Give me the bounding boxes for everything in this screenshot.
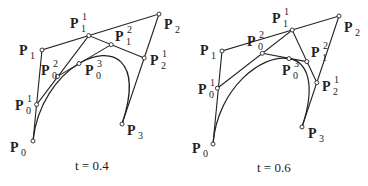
label-p1-1: P11 [70,11,87,34]
point-p2 [157,12,161,16]
curve-left-part [213,58,289,144]
point-p2-1 [315,81,319,85]
label-p0-3: P30 [282,58,299,81]
label-p1-2: P21 [115,24,132,47]
label-p1-2: P21 [311,40,328,63]
label-p0: P0 [10,140,26,158]
label-p2-1: P12 [150,48,167,71]
point-p0-1 [215,86,219,90]
label-p1: P1 [200,43,216,61]
label-p1: P1 [19,43,35,61]
caption-right: t = 0.6 [257,160,291,175]
label-p0-1: P10 [15,93,32,116]
label-p0-2: P20 [247,29,264,52]
point-p0 [31,139,35,143]
point-p2 [337,14,341,18]
control-polygon [213,16,339,144]
de-casteljau-diagram: P0P1P2P3P10P11P12P20P21P30 P0P1P2P3P10P1… [0,0,368,186]
point-p1 [40,48,44,52]
level-1-polygon [217,30,316,88]
caption-left: t = 0.4 [75,158,109,173]
point-p0-3 [77,62,81,66]
point-p2-1 [142,56,146,60]
point-p3 [120,122,124,126]
label-p2: P2 [344,20,360,38]
panel-t-0-4: P0P1P2P3P10P11P12P20P21P30 [10,11,180,158]
point-p0 [211,142,215,146]
label-p2-1: P12 [322,74,339,97]
label-p3: P3 [127,123,143,141]
label-p2: P2 [164,17,180,35]
label-p1-1: P11 [272,6,289,29]
point-p0-3 [287,57,291,61]
label-p3: P3 [308,126,324,144]
label-p0: P0 [192,141,208,159]
point-p1-2 [305,60,309,64]
point-p1-1 [87,34,91,38]
point-p1 [220,49,224,53]
panel-t-0-6: P0P1P2P3P10P11P12P20P21P30 [192,6,360,159]
point-p0-1 [35,103,39,107]
point-p1-2 [109,43,113,47]
label-p0-2: P20 [41,58,58,81]
point-p3 [300,125,304,129]
label-p0-3: P30 [85,58,102,81]
point-p1-1 [290,28,294,32]
label-p0-1: P10 [198,77,215,100]
curve-right-part [289,59,309,127]
